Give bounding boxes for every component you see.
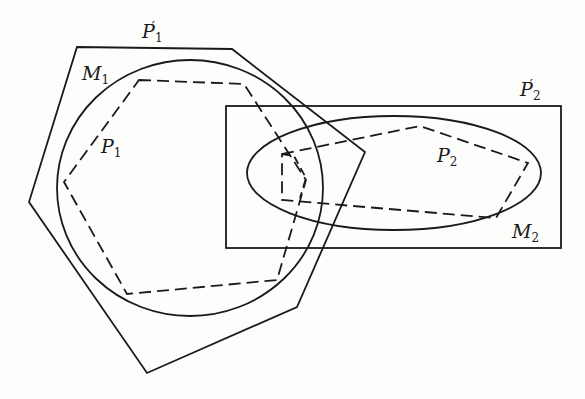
polygon-p2-indent-dashed [282, 154, 306, 198]
label-p2: P2 [437, 146, 457, 168]
polygon-p2-dashed [282, 126, 528, 218]
label-p1-prime: P′1 [142, 20, 163, 44]
label-m2: M2 [512, 222, 539, 244]
polygon-p1-dashed [64, 80, 306, 294]
diagram-svg [0, 0, 585, 399]
ellipse-m2 [247, 116, 541, 230]
polygon-p1-prime [29, 47, 365, 373]
diagram-canvas: P′1 M1 P1 P′2 P2 M2 [0, 0, 585, 399]
label-p1: P1 [101, 137, 121, 159]
label-m1: M1 [82, 64, 109, 86]
label-p2-prime: P′2 [520, 78, 541, 102]
rect-p2-prime [226, 106, 561, 248]
ellipse-m1 [57, 60, 323, 316]
